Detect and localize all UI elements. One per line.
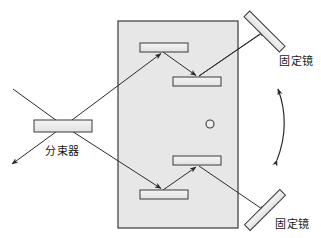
upper-right-mirror — [173, 77, 221, 86]
fixed-mirror-top-label: 固定镜 — [279, 54, 314, 68]
diagram-canvas: 分束器 固定镜 固定镜 — [0, 0, 321, 238]
lower-left-mirror — [140, 190, 188, 199]
upper-left-mirror — [140, 43, 188, 52]
rotation-pivot — [206, 120, 214, 128]
lower-right-mirror — [173, 156, 221, 165]
rotation-direction-arrow — [277, 89, 284, 160]
fixed-mirror-bottom-label: 固定镜 — [275, 217, 310, 231]
beam-splitter-label: 分束器 — [45, 145, 80, 158]
fixed-mirror-top — [244, 11, 285, 52]
interferometer-diagram: 分束器 固定镜 固定镜 — [0, 0, 321, 238]
beam-splitter — [34, 120, 92, 132]
